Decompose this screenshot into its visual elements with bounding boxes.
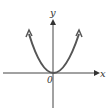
y-axis-label: y <box>49 7 56 18</box>
parabola-graph: y x 0 <box>0 0 109 110</box>
parabola-curve <box>29 34 79 73</box>
origin-label: 0 <box>47 75 53 85</box>
x-axis-label: x <box>100 68 106 79</box>
